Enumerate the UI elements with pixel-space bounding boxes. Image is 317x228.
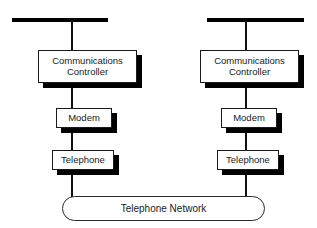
left-communications-controller-label: Communications Controller <box>52 56 123 78</box>
right-telephone-box: Telephone <box>217 150 279 170</box>
left-telephone-label: Telephone <box>61 155 105 166</box>
right-network-bus <box>207 18 304 22</box>
left-modem-to-telephone-line <box>71 133 73 151</box>
telephone-network-label: Telephone Network <box>121 203 207 214</box>
right-communications-controller-box: Communications Controller <box>200 50 299 83</box>
left-controller-to-modem-line <box>71 88 73 109</box>
left-modem-label: Modem <box>68 113 100 124</box>
right-modem-to-telephone-line <box>245 133 247 151</box>
left-bus-to-controller-line <box>71 20 73 50</box>
left-network-bus <box>12 18 108 22</box>
right-controller-to-modem-line <box>245 88 247 109</box>
right-modem-label: Modem <box>233 113 265 124</box>
telephone-network-box: Telephone Network <box>62 196 265 221</box>
right-telephone-label: Telephone <box>226 155 270 166</box>
left-telephone-box: Telephone <box>52 150 114 170</box>
left-modem-box: Modem <box>56 108 112 128</box>
right-bus-to-controller-line <box>245 20 247 50</box>
right-modem-box: Modem <box>221 108 277 128</box>
left-communications-controller-box: Communications Controller <box>38 50 137 83</box>
network-diagram: Communications Controller Modem Telephon… <box>0 0 317 228</box>
right-communications-controller-label: Communications Controller <box>214 56 285 78</box>
